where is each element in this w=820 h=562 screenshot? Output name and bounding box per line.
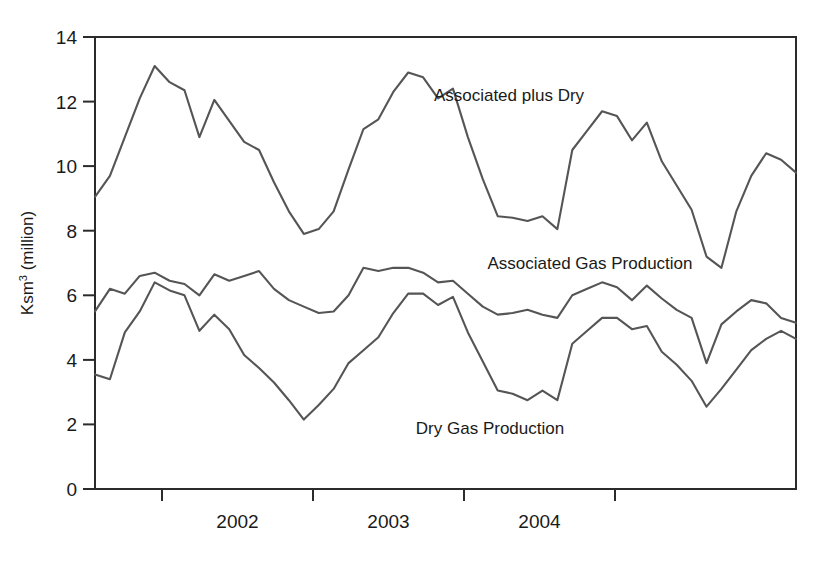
y-tick-label-12: 12 xyxy=(56,92,77,113)
y-tick-label-4: 4 xyxy=(66,350,77,371)
y-tick-marks xyxy=(83,37,95,489)
x-tick-label-2002: 2002 xyxy=(216,511,258,532)
series-line-associated-gas-production xyxy=(95,268,796,363)
series-label-dry-gas-production: Dry Gas Production xyxy=(416,419,564,438)
y-axis-title-tail: (million) xyxy=(18,211,37,275)
y-tick-label-10: 10 xyxy=(56,156,77,177)
chart-svg: 14 12 10 8 6 4 2 0 Ksm3 (million) 2002 2… xyxy=(0,0,820,562)
svg-text:Ksm3 (million): Ksm3 (million) xyxy=(17,211,37,315)
y-axis-title-base: Ksm xyxy=(18,281,37,315)
data-series-group xyxy=(95,66,796,420)
x-tick-label-2003: 2003 xyxy=(367,511,409,532)
series-label-associated-plus-dry: Associated plus Dry xyxy=(434,86,585,105)
x-tick-label-2004: 2004 xyxy=(518,511,561,532)
y-tick-label-2: 2 xyxy=(66,414,77,435)
y-tick-label-14: 14 xyxy=(56,27,78,48)
series-line-dry-gas-production xyxy=(95,282,796,419)
x-tick-labels: 2002 2003 2004 xyxy=(216,511,561,532)
y-tick-label-8: 8 xyxy=(66,221,77,242)
series-annotations: Associated plus Dry Associated Gas Produ… xyxy=(416,86,693,438)
chart-figure: 14 12 10 8 6 4 2 0 Ksm3 (million) 2002 2… xyxy=(0,0,820,562)
y-axis-title: Ksm3 (million) xyxy=(17,211,37,315)
y-tick-label-6: 6 xyxy=(66,285,77,306)
series-label-associated-gas-production: Associated Gas Production xyxy=(487,254,692,273)
x-tick-marks xyxy=(162,489,615,501)
y-tick-label-0: 0 xyxy=(66,479,77,500)
y-tick-labels: 14 12 10 8 6 4 2 0 xyxy=(56,27,78,500)
